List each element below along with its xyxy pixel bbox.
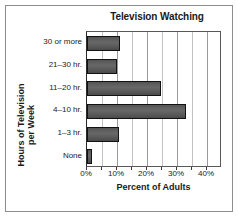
x-tick-mark <box>86 167 87 170</box>
bar-row <box>87 104 220 119</box>
plot-area <box>86 31 221 167</box>
x-tick-mark <box>161 167 162 170</box>
bar-row <box>87 149 220 164</box>
y-category-label: 4–10 hr. <box>12 105 82 114</box>
y-axis-category-labels: 30 or more21–30 hr.11–20 hr.4–10 hr.1–3 … <box>12 31 82 167</box>
y-category-label: 21–30 hr. <box>12 60 82 69</box>
x-tick-mark <box>146 167 147 170</box>
x-tick-mark <box>101 167 102 170</box>
bar-series <box>87 32 220 166</box>
x-tick-label: 0% <box>80 169 92 178</box>
x-tick-label: 30% <box>168 169 184 178</box>
x-axis-tick-labels: 0%10%20%30%40% <box>86 169 221 181</box>
bar-3 <box>87 104 186 119</box>
bar-5 <box>87 149 92 164</box>
x-tick-mark <box>176 167 177 170</box>
chart-title: Television Watching <box>86 11 228 22</box>
x-tick-mark <box>206 167 207 170</box>
bar-row <box>87 81 220 96</box>
x-tick-label: 10% <box>108 169 124 178</box>
bar-row <box>87 36 220 51</box>
y-category-label: 1–3 hr. <box>12 128 82 137</box>
x-tick-label: 20% <box>138 169 154 178</box>
bar-1 <box>87 59 117 74</box>
y-category-label: 11–20 hr. <box>12 83 82 92</box>
bar-0 <box>87 36 120 51</box>
y-category-label: None <box>12 151 82 160</box>
x-tick-mark <box>191 167 192 170</box>
x-tick-mark <box>116 167 117 170</box>
bar-4 <box>87 127 119 142</box>
y-category-label: 30 or more <box>12 37 82 46</box>
chart-figure: Television Watching Hours of Television … <box>0 0 238 217</box>
x-tick-label: 40% <box>198 169 214 178</box>
x-tick-mark <box>131 167 132 170</box>
bar-row <box>87 127 220 142</box>
bar-2 <box>87 81 161 96</box>
x-axis-title: Percent of Adults <box>86 182 221 192</box>
bar-row <box>87 59 220 74</box>
